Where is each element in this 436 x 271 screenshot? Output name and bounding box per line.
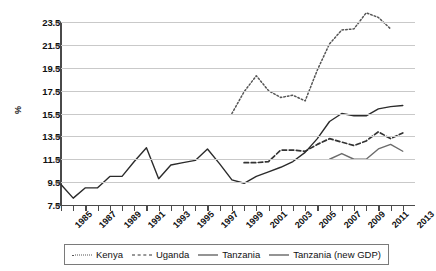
x-tick-label: 1987: [97, 209, 118, 230]
gridline: [61, 91, 415, 92]
y-axis-tick-labels: 7.59.511.513.515.517.519.521.523.5: [0, 0, 60, 271]
x-tick-label: 1999: [244, 209, 265, 230]
x-tick-label: 2001: [268, 209, 289, 230]
solid-line-swatch: [198, 251, 218, 259]
y-tick-mark: [56, 90, 61, 91]
y-tick-mark: [56, 67, 61, 68]
y-tick-label: 7.5: [16, 200, 60, 211]
dotted-line-swatch: [72, 251, 92, 259]
series-line: [61, 105, 403, 198]
legend-item[interactable]: Uganda: [132, 249, 189, 260]
y-tick-mark: [56, 113, 61, 114]
gridline: [61, 68, 415, 69]
gridline: [61, 45, 415, 46]
y-tick-label: 17.5: [16, 85, 60, 96]
x-tick-label: 2011: [390, 209, 411, 230]
solid-line-swatch: [269, 251, 289, 259]
y-tick-label: 13.5: [16, 131, 60, 142]
y-tick-mark: [56, 44, 61, 45]
x-tick-label: 1991: [146, 209, 167, 230]
chart-legend: KenyaUgandaTanzaniaTanzania (new GDP): [64, 244, 389, 265]
plot-area: [61, 22, 415, 205]
y-tick-label: 23.5: [16, 17, 60, 28]
y-tick-mark: [56, 136, 61, 137]
series-line: [232, 13, 391, 114]
gridline: [61, 114, 415, 115]
legend-item[interactable]: Tanzania (new GDP): [269, 249, 381, 260]
x-tick-label: 2005: [317, 209, 338, 230]
x-tick-label: 1993: [171, 209, 192, 230]
legend-item-label: Uganda: [156, 249, 189, 260]
y-tick-label: 11.5: [16, 154, 60, 165]
gridline: [61, 182, 415, 183]
x-tick-label: 2009: [366, 209, 387, 230]
legend-item-label: Tanzania (new GDP): [293, 249, 381, 260]
x-tick-label: 1995: [195, 209, 216, 230]
x-tick-label: 1985: [73, 209, 94, 230]
gridline: [61, 22, 415, 23]
x-axis-tick-labels: 1985198719891991199319951997199920012003…: [61, 209, 415, 247]
y-tick-mark: [56, 181, 61, 182]
legend-item[interactable]: Tanzania: [198, 249, 260, 260]
x-tick-label: 1989: [122, 209, 143, 230]
y-tick-label: 19.5: [16, 62, 60, 73]
legend-item-label: Kenya: [96, 249, 123, 260]
gridline: [61, 159, 415, 160]
x-tick-label: 2003: [293, 209, 314, 230]
y-tick-label: 9.5: [16, 177, 60, 188]
x-tick-label: 2013: [415, 209, 436, 230]
series-line: [330, 144, 403, 159]
y-tick-label: 21.5: [16, 39, 60, 50]
gridline: [61, 136, 415, 137]
x-tick-label: 2007: [341, 209, 362, 230]
x-tick-label: 1997: [219, 209, 240, 230]
dashed-line-swatch: [132, 251, 152, 259]
y-tick-mark: [56, 21, 61, 22]
y-tick-label: 15.5: [16, 108, 60, 119]
y-tick-mark: [56, 159, 61, 160]
legend-item-label: Tanzania: [222, 249, 260, 260]
legend-item[interactable]: Kenya: [72, 249, 123, 260]
